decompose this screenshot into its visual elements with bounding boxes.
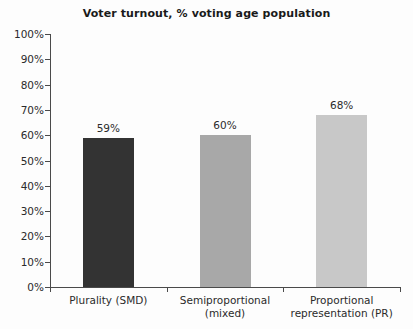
x-axis-category-label-line: representation (PR)	[283, 307, 400, 320]
y-axis-tick-label: 30%	[2, 206, 44, 217]
y-axis-tick	[45, 34, 50, 35]
x-axis-tick	[50, 287, 51, 292]
x-axis-category-label-line: Proportional	[283, 294, 400, 307]
x-axis-tick	[283, 287, 284, 292]
y-axis-tick-label: 70%	[2, 105, 44, 116]
bar	[316, 115, 367, 287]
y-axis-tick-label: 0%	[2, 282, 44, 293]
bar-value-label: 59%	[78, 123, 138, 134]
x-axis-category-label-line: Semiproportional	[167, 294, 284, 307]
chart-title: Voter turnout, % voting age population	[0, 7, 413, 20]
y-axis-tick	[45, 262, 50, 263]
y-axis-tick-label: 90%	[2, 54, 44, 65]
y-axis-tick	[45, 135, 50, 136]
y-axis-tick	[45, 186, 50, 187]
y-axis-tick-label: 10%	[2, 257, 44, 268]
y-axis-line	[50, 34, 51, 287]
x-axis-line	[50, 287, 400, 288]
bar-value-label: 60%	[195, 120, 255, 131]
y-axis-tick	[45, 59, 50, 60]
x-axis-tick	[167, 287, 168, 292]
y-axis-tick-label: 80%	[2, 80, 44, 91]
y-axis-tick-label: 100%	[2, 29, 44, 40]
x-axis-tick	[400, 287, 401, 292]
y-axis-tick	[45, 85, 50, 86]
y-axis-tick	[45, 161, 50, 162]
x-axis-category-label-line: Plurality (SMD)	[50, 294, 167, 307]
x-axis-category-label: Proportionalrepresentation (PR)	[283, 294, 400, 320]
y-axis-tick	[45, 110, 50, 111]
bar	[83, 138, 134, 287]
x-axis-category-label: Semiproportional(mixed)	[167, 294, 284, 320]
y-axis-tick	[45, 236, 50, 237]
y-axis-tick-label: 40%	[2, 181, 44, 192]
y-axis-tick	[45, 211, 50, 212]
y-axis-tick-label: 60%	[2, 130, 44, 141]
bar	[200, 135, 251, 287]
bar-chart: Voter turnout, % voting age population 0…	[0, 0, 413, 329]
bar-value-label: 68%	[312, 100, 372, 111]
y-axis-tick-label: 20%	[2, 231, 44, 242]
x-axis-category-label-line: (mixed)	[167, 307, 284, 320]
y-axis-tick-label: 50%	[2, 156, 44, 167]
x-axis-category-label: Plurality (SMD)	[50, 294, 167, 307]
